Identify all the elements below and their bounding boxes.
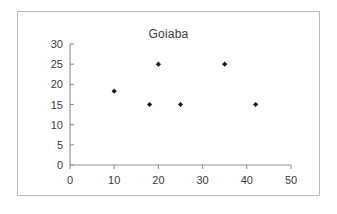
- y-tick-label: 10: [51, 119, 63, 131]
- chart-frame: Goiaba 051015202530 01020304050: [17, 11, 320, 196]
- data-point: [222, 62, 227, 67]
- data-point: [253, 102, 258, 107]
- data-point: [156, 62, 161, 67]
- x-tick-label: 40: [241, 174, 253, 186]
- data-point: [112, 89, 117, 94]
- y-tick-label: 0: [57, 159, 63, 171]
- x-tick-label: 30: [196, 174, 208, 186]
- data-point: [178, 102, 183, 107]
- y-tick-label: 20: [51, 78, 63, 90]
- x-tick-label: 50: [285, 174, 297, 186]
- scatter-plot: 051015202530 01020304050: [18, 12, 321, 197]
- y-tick-label: 15: [51, 99, 63, 111]
- x-axis: 01020304050: [67, 165, 297, 186]
- y-tick-label: 5: [57, 139, 63, 151]
- y-tick-label: 30: [51, 38, 63, 50]
- x-tick-label: 20: [152, 174, 164, 186]
- y-axis: 051015202530: [51, 38, 74, 171]
- x-axis-ticks: 01020304050: [67, 165, 297, 186]
- data-points: [112, 62, 259, 108]
- x-tick-label: 10: [108, 174, 120, 186]
- x-tick-label: 0: [67, 174, 73, 186]
- y-tick-label: 25: [51, 58, 63, 70]
- data-point: [147, 102, 152, 107]
